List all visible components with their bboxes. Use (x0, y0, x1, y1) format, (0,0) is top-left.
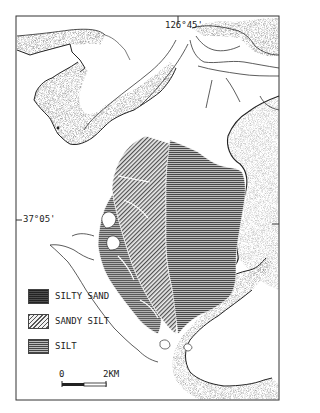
legend-label: SILT (55, 341, 77, 351)
legend-item-silty-sand: SILTY SAND (28, 288, 109, 304)
scale-start-label: 0 (59, 369, 64, 379)
silt-swatch (28, 339, 49, 354)
legend-item-silt: SILT (28, 338, 77, 354)
silty-sand-swatch (28, 289, 49, 304)
latitude-label: 37°05' (23, 214, 56, 224)
scale-end-label: 2KM (103, 369, 119, 379)
longitude-label: 126°45' (165, 20, 203, 30)
legend-label: SILTY SAND (55, 291, 109, 301)
scale-bar (62, 381, 106, 387)
sandy-silt-swatch (28, 314, 49, 329)
coastline-northeast (192, 18, 279, 56)
legend-label: SANDY SILT (55, 316, 109, 326)
peninsula-west (34, 62, 176, 145)
legend-item-sandy-silt: SANDY SILT (28, 313, 109, 329)
